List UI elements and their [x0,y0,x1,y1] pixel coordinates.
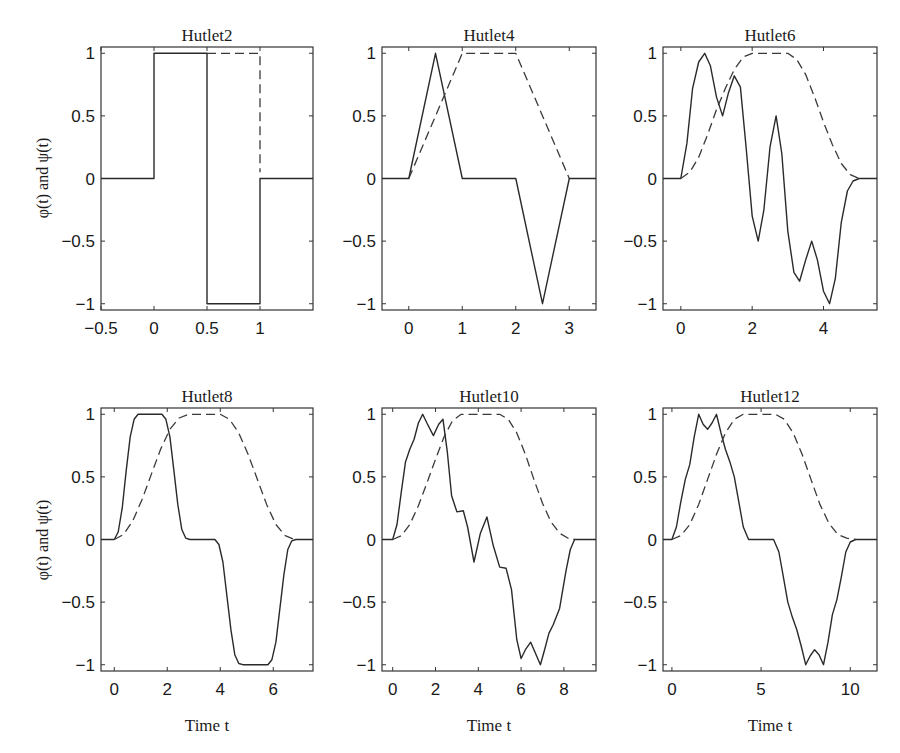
y-tick-label: −0.5 [623,232,657,251]
subplot-hutlet4: 0123−1−0.500.51Hutlet4 [342,26,596,338]
x-tick-label: 10 [841,680,860,699]
x-tick-label: 0.5 [195,319,219,338]
subplot-hutlet10: 02468−1−0.500.51Hutlet10Time t [342,387,596,735]
subplot-title: Hutlet4 [464,26,515,45]
y-tick-label: 1 [86,44,95,63]
subplot-title: Hutlet12 [740,387,800,406]
y-tick-label: 0 [367,531,376,550]
y-tick-label: 1 [367,44,376,63]
x-tick-label: 0 [404,319,413,338]
subplot-title: Hutlet8 [182,387,233,406]
x-tick-label: 0 [110,680,119,699]
y-tick-label: 1 [648,405,657,424]
x-axis-label: Time t [467,716,512,735]
x-tick-label: 1 [255,319,264,338]
y-tick-label: −1 [357,656,376,675]
x-tick-label: 1 [458,319,467,338]
y-tick-label: 0 [367,170,376,189]
x-tick-label: 4 [819,319,828,338]
y-tick-label: 0 [648,531,657,550]
x-tick-label: 2 [431,680,440,699]
subplot-grid: −0.500.51−1−0.500.51Hutlet20123−1−0.500.… [61,26,877,735]
y-tick-label: 0.5 [633,107,657,126]
x-tick-label: 0 [149,319,158,338]
x-tick-label: 6 [269,680,278,699]
x-tick-label: 0 [388,680,397,699]
y-tick-label: −1 [638,656,657,675]
y-tick-label: −1 [357,295,376,314]
y-tick-label: 0 [86,531,95,550]
x-tick-label: 8 [559,680,568,699]
y-tick-label: 0.5 [633,468,657,487]
y-tick-label: −1 [76,295,95,314]
x-axis-label: Time t [748,716,793,735]
y-tick-label: 1 [648,44,657,63]
subplot-hutlet8: 0246−1−0.500.51Hutlet8Time t [61,387,313,735]
y-tick-label: 0.5 [71,468,95,487]
subplot-title: Hutlet6 [745,26,796,45]
wavelet-figure: −0.500.51−1−0.500.51Hutlet20123−1−0.500.… [0,0,900,753]
x-axis-label: Time t [185,716,230,735]
ylabel-top-row: φ(t) and ψ(t) [34,138,52,219]
y-tick-label: −1 [638,295,657,314]
y-tick-label: −0.5 [342,593,376,612]
subplot-title: Hutlet2 [182,26,233,45]
y-tick-label: 0.5 [352,107,376,126]
y-tick-label: −0.5 [61,593,95,612]
x-tick-label: −0.5 [84,319,118,338]
x-tick-label: 6 [516,680,525,699]
y-tick-label: 0.5 [71,107,95,126]
subplot-hutlet2: −0.500.51−1−0.500.51Hutlet2 [61,26,313,338]
y-tick-label: 0 [648,170,657,189]
y-tick-label: −0.5 [61,232,95,251]
axes-frame [382,408,596,671]
subplot-hutlet6: 024−1−0.500.51Hutlet6 [623,26,877,338]
ylabel-bottom-row: φ(t) and ψ(t) [34,500,52,581]
y-tick-label: 0 [86,170,95,189]
x-tick-label: 3 [565,319,574,338]
x-tick-label: 4 [474,680,483,699]
subplot-hutlet12: 0510−1−0.500.51Hutlet12Time t [623,387,877,735]
y-tick-label: 0.5 [352,468,376,487]
x-tick-label: 2 [163,680,172,699]
y-tick-label: −0.5 [342,232,376,251]
x-tick-label: 5 [756,680,765,699]
y-tick-label: −0.5 [623,593,657,612]
y-tick-label: 1 [367,405,376,424]
x-tick-label: 2 [747,319,756,338]
axes-frame [663,47,877,310]
x-tick-label: 0 [667,680,676,699]
x-tick-label: 2 [511,319,520,338]
x-tick-label: 0 [676,319,685,338]
y-tick-label: −1 [76,656,95,675]
x-tick-label: 4 [216,680,225,699]
subplot-title: Hutlet10 [459,387,519,406]
y-tick-label: 1 [86,405,95,424]
